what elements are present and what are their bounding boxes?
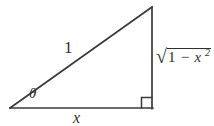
- angle-theta-label: θ: [29, 86, 36, 101]
- radicand-one: 1: [168, 49, 176, 65]
- radicand-minus-operator: −: [179, 49, 190, 65]
- base-x-label: x: [73, 110, 80, 126]
- radicand-exponent-two: 2: [205, 47, 210, 58]
- radicand-group: 1 − x 2: [167, 48, 211, 65]
- radical-sign-icon: √: [156, 48, 167, 65]
- right-angle-marker: [142, 98, 152, 108]
- hypotenuse-label: 1: [64, 39, 73, 56]
- radicand-x-variable: x: [194, 49, 201, 65]
- trigonometry-triangle-figure: 1 θ x √ 1 − x 2: [0, 0, 214, 126]
- opposite-side-radical-label: √ 1 − x 2: [156, 47, 211, 64]
